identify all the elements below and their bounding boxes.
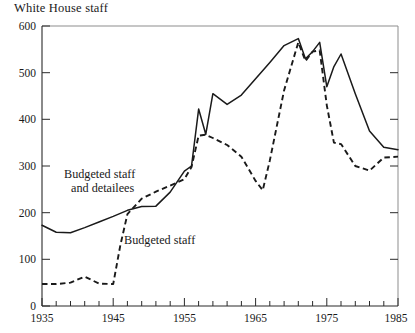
y-tick-label-0: 0 bbox=[30, 300, 36, 312]
series-annotation-detailees: Budgeted staff and detailees bbox=[64, 167, 136, 195]
y-axis-right-ticks bbox=[390, 73, 398, 260]
x-tick-label-1985: 1985 bbox=[385, 312, 408, 324]
y-tick-label-500: 500 bbox=[19, 67, 37, 79]
series-label-budgeted-line1: Budgeted staff bbox=[124, 233, 196, 247]
series-label-detailees-line1: Budgeted staff bbox=[64, 167, 136, 181]
plot-frame bbox=[42, 26, 398, 306]
x-axis-ticks bbox=[42, 298, 398, 306]
x-tick-label-1935: 1935 bbox=[31, 312, 54, 324]
series-label-detailees-line2: and detailees bbox=[71, 181, 135, 195]
y-tick-label-200: 200 bbox=[19, 207, 37, 219]
chart-figure: White House staff 0 100 200 bbox=[0, 0, 415, 333]
series-annotation-budgeted: Budgeted staff bbox=[124, 233, 196, 247]
series-line-budgeted-staff-and-detailees bbox=[42, 39, 398, 233]
y-axis-ticks bbox=[42, 26, 50, 306]
x-tick-label-1955: 1955 bbox=[173, 312, 196, 324]
x-tick-label-1965: 1965 bbox=[244, 312, 267, 324]
x-tick-label-1975: 1975 bbox=[315, 312, 338, 324]
y-tick-label-300: 300 bbox=[19, 160, 37, 172]
x-axis-tick-labels: 1935 1945 1955 1965 1975 1985 bbox=[31, 312, 408, 324]
y-tick-label-400: 400 bbox=[19, 113, 37, 125]
chart-canvas: 0 100 200 300 400 500 600 bbox=[0, 0, 415, 333]
series-line-budgeted-staff bbox=[42, 42, 398, 284]
y-axis-tick-labels: 0 100 200 300 400 500 600 bbox=[19, 20, 37, 312]
y-tick-label-600: 600 bbox=[19, 20, 37, 32]
x-tick-label-1945: 1945 bbox=[102, 312, 125, 324]
y-tick-label-100: 100 bbox=[19, 253, 37, 265]
